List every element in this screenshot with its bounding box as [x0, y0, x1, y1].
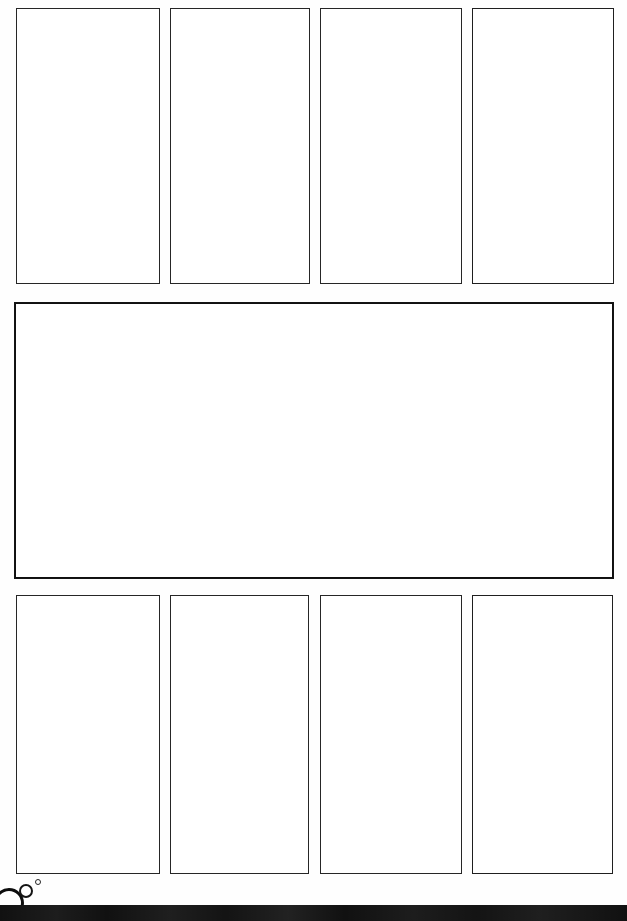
middle-panel-wide[interactable]: [14, 302, 614, 579]
top-panel-1[interactable]: [16, 8, 160, 284]
scanned-page: [0, 0, 627, 921]
bottom-panel-3[interactable]: [320, 595, 462, 874]
footer-bar-texture: [0, 905, 627, 921]
top-panel-4[interactable]: [472, 8, 614, 284]
top-panel-2[interactable]: [170, 8, 310, 284]
bottom-panel-2[interactable]: [170, 595, 309, 874]
top-panel-3[interactable]: [320, 8, 462, 284]
bottom-panel-4[interactable]: [472, 595, 613, 874]
bottom-panel-1[interactable]: [16, 595, 160, 874]
bubble-medium: [19, 884, 33, 898]
bubble-small: [35, 879, 41, 885]
black-footer-bar: [0, 905, 627, 921]
